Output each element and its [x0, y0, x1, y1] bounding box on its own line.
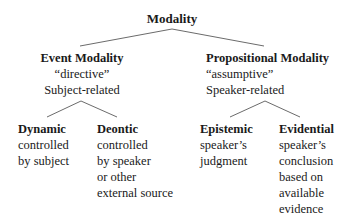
- epistemic-title: Epistemic: [200, 121, 253, 137]
- evidential-desc-line: speaker’s: [279, 137, 334, 153]
- deontic-node: Deontic controlled by speaker or other e…: [97, 121, 173, 201]
- propositional-modality-type: “assumptive”: [206, 66, 329, 82]
- evidential-desc-line: evidence: [279, 201, 334, 217]
- propositional-modality-node: Propositional Modality “assumptive” Spea…: [206, 50, 329, 98]
- event-modality-relation: Subject-related: [41, 82, 124, 98]
- dynamic-desc-line: controlled: [18, 137, 69, 153]
- dynamic-desc-line: by subject: [18, 153, 69, 169]
- deontic-desc-line: by speaker: [97, 153, 173, 169]
- root-label: Modality: [147, 11, 198, 26]
- dynamic-title: Dynamic: [18, 121, 69, 137]
- epistemic-desc-line: judgment: [200, 153, 253, 169]
- evidential-node: Evidential speaker’s conclusion based on…: [279, 121, 334, 217]
- deontic-title: Deontic: [97, 121, 173, 137]
- event-modality-node: Event Modality “directive” Subject-relat…: [41, 50, 124, 98]
- evidential-desc-line: available: [279, 185, 334, 201]
- evidential-desc-line: based on: [279, 169, 334, 185]
- connector-event-deontic: [81, 101, 117, 117]
- evidential-desc-line: conclusion: [279, 153, 334, 169]
- propositional-modality-title: Propositional Modality: [206, 50, 329, 66]
- event-modality-title: Event Modality: [41, 50, 124, 66]
- deontic-desc-line: external source: [97, 185, 173, 201]
- dynamic-node: Dynamic controlled by subject: [18, 121, 69, 169]
- evidential-title: Evidential: [279, 121, 334, 137]
- connector-propositional-evidential: [265, 101, 300, 117]
- epistemic-desc-line: speaker’s: [200, 137, 253, 153]
- connector-root-event: [80, 29, 172, 46]
- deontic-desc-line: or other: [97, 169, 173, 185]
- deontic-desc-line: controlled: [97, 137, 173, 153]
- connector-propositional-epistemic: [230, 101, 265, 117]
- connector-root-propositional: [172, 29, 264, 46]
- event-modality-type: “directive”: [41, 66, 124, 82]
- epistemic-node: Epistemic speaker’s judgment: [200, 121, 253, 169]
- propositional-modality-relation: Speaker-related: [206, 82, 329, 98]
- root-node: Modality: [147, 11, 198, 27]
- connector-event-dynamic: [47, 101, 81, 117]
